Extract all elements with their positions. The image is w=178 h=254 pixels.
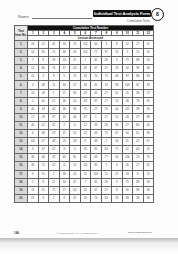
lesson-cell: 102 <box>80 49 91 57</box>
test-item-no-header: Test Item No. <box>15 26 28 41</box>
lesson-cell: 88 <box>143 113 154 121</box>
lesson-cell: 76 <box>101 105 112 113</box>
lesson-cell: 36 <box>59 105 70 113</box>
lesson-cell: 20 <box>49 162 60 170</box>
lesson-cell: 36 <box>133 194 144 202</box>
table-row: 11.4022412612342692278040 <box>15 121 154 129</box>
lesson-cell: 72 <box>101 73 112 81</box>
lesson-cell: 27 <box>101 89 112 97</box>
lesson-cell: 67 <box>112 130 123 138</box>
lesson-cell: 24 <box>80 170 91 178</box>
lesson-cell: 61 <box>133 130 144 138</box>
form-subtitle: Cumulative Tests <box>127 19 150 23</box>
lesson-cell: 11 <box>59 162 70 170</box>
lesson-cell: 15 <box>49 49 60 57</box>
table-row: 12.63629375222497567946196 <box>15 130 154 138</box>
lesson-cell: 22 <box>38 121 49 129</box>
lesson-cell: 94 <box>122 130 133 138</box>
lesson-cell: 78 <box>133 97 144 105</box>
lesson-cell: 10 <box>112 49 123 57</box>
lesson-cell: 11 <box>28 186 39 194</box>
lesson-cell: 8 <box>59 194 70 202</box>
lesson-cell: 8 <box>80 138 91 146</box>
lesson-cell: 31 <box>122 138 133 146</box>
lesson-cell: 71 <box>112 146 123 154</box>
lesson-cell: 8 <box>112 186 123 194</box>
lesson-cell: 48 <box>38 81 49 89</box>
item-number: 18. <box>15 178 28 186</box>
lesson-cell: 98 <box>133 186 144 194</box>
lesson-cell: 37 <box>49 113 60 121</box>
lesson-cell: 109 <box>122 81 133 89</box>
lesson-cell: 44 <box>49 105 60 113</box>
lesson-cell: 36 <box>38 130 49 138</box>
lesson-cell: 26 <box>112 194 123 202</box>
item-number: 13. <box>15 138 28 146</box>
lesson-cell: 18 <box>112 65 123 73</box>
lesson-cell: 8 <box>38 178 49 186</box>
lesson-cell: 2 <box>28 97 39 105</box>
lesson-cell: 36 <box>59 97 70 105</box>
lesson-cell: 43 <box>80 97 91 105</box>
lesson-cell: 41 <box>133 138 144 146</box>
lesson-cell: 39 <box>59 170 70 178</box>
lesson-cell: 33 <box>49 57 60 65</box>
lesson-cell: 28 <box>70 138 81 146</box>
lesson-cell: 44 <box>112 105 123 113</box>
lesson-cell: 45 <box>91 81 102 89</box>
lesson-cell: 41 <box>91 89 102 97</box>
lesson-cell: 3 <box>28 146 39 154</box>
lesson-cell: 27 <box>59 186 70 194</box>
lesson-cell: 47 <box>70 57 81 65</box>
lesson-cell: 50 <box>91 41 102 49</box>
lesson-cell: 36 <box>143 194 154 202</box>
analysis-table: Test Item No. Cumulative Test Number 123… <box>14 25 154 203</box>
lesson-cell: 38 <box>122 97 133 105</box>
lesson-cell: 56 <box>122 186 133 194</box>
item-number: 14. <box>15 146 28 154</box>
lesson-cell: 39 <box>133 105 144 113</box>
lesson-cell: 41 <box>49 121 60 129</box>
item-number: 4. <box>15 65 28 73</box>
lesson-cell: 112 <box>70 65 81 73</box>
lesson-cell: 49 <box>91 130 102 138</box>
lesson-cell: 40 <box>38 97 49 105</box>
lesson-cell: 34 <box>80 73 91 81</box>
lesson-cell: 86 <box>133 73 144 81</box>
table-row: 14.347528535816371426455 <box>15 146 154 154</box>
lesson-cell: 2 <box>101 138 112 146</box>
copyright-text: © Pearson Education, Inc. All Rights Res… <box>56 232 98 234</box>
lesson-cell: 67 <box>143 138 154 146</box>
lesson-cell: 30 <box>91 162 102 170</box>
lesson-cell: 81 <box>70 154 81 162</box>
worksheet-page: Name Individual Test Analysis Form 8 Cum… <box>0 0 178 238</box>
lesson-cell: 13 <box>101 81 112 89</box>
page-number: 146 <box>14 231 19 235</box>
lesson-cell: 17 <box>28 113 39 121</box>
lesson-cell: 26 <box>101 121 112 129</box>
lesson-cell: 34 <box>112 154 123 162</box>
item-number: 3. <box>15 57 28 65</box>
lesson-cell: 8 <box>59 146 70 154</box>
lesson-cell: 11 <box>49 81 60 89</box>
lesson-cell: 35 <box>91 178 102 186</box>
item-number: 2. <box>15 49 28 57</box>
lesson-cell: 18 <box>122 170 133 178</box>
lesson-cell: 33 <box>143 81 154 89</box>
lesson-cell: 48 <box>49 138 60 146</box>
lesson-cell: 16 <box>59 41 70 49</box>
table-row: 8.24021362543871772387892 <box>15 97 154 105</box>
lesson-cell: 83 <box>143 73 154 81</box>
lesson-cell: 9 <box>28 170 39 178</box>
lesson-cell: 97 <box>122 73 133 81</box>
lesson-cell: 6 <box>70 121 81 129</box>
table-row: 7.16185579020412762553627 <box>15 89 154 97</box>
lesson-cell: 5 <box>49 170 60 178</box>
lesson-cell: 36 <box>133 89 144 97</box>
lesson-cell: 42 <box>122 146 133 154</box>
lesson-cell: 46 <box>70 113 81 121</box>
lesson-cell: 35 <box>38 49 49 57</box>
lesson-cell: 3 <box>38 194 49 202</box>
lesson-cell: 105 <box>122 105 133 113</box>
lesson-cell: 3 <box>101 41 112 49</box>
